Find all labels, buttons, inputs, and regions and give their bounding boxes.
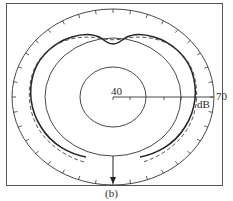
angle-tick [63, 170, 65, 173]
angle-tick [187, 40, 190, 43]
arrow-head-icon [110, 177, 116, 184]
angle-tick [78, 14, 79, 18]
angle-tick [95, 180, 96, 184]
angle-tick [197, 53, 200, 55]
angle-tick [162, 170, 164, 173]
angle-tick [175, 30, 178, 33]
inner-scale-label: 40 [111, 86, 122, 97]
angle-tick [204, 126, 208, 127]
angle-tick [78, 176, 79, 180]
angle-tick [18, 126, 22, 127]
figure-caption: (b) [105, 188, 118, 199]
angle-tick [63, 21, 65, 24]
outer-scale-label: 70 [216, 91, 227, 102]
angle-tick [48, 161, 51, 164]
angle-tick [197, 139, 200, 141]
angle-tick [146, 14, 147, 18]
angle-tick [14, 82, 18, 83]
angle-tick [175, 161, 178, 164]
angle-tick [130, 10, 131, 14]
angle-tick [146, 176, 147, 180]
angle-tick [48, 30, 51, 33]
angle-tick [36, 151, 39, 154]
angle-tick [26, 139, 29, 141]
angle-tick [162, 21, 164, 24]
angle-tick [209, 82, 213, 83]
angle-tick [14, 112, 18, 113]
angle-tick [18, 67, 22, 68]
angle-tick [187, 151, 190, 154]
unit-label: dB [197, 99, 210, 110]
angle-tick [36, 40, 39, 43]
angle-tick [26, 53, 29, 55]
angle-tick [95, 10, 96, 14]
angle-tick [130, 180, 131, 184]
angle-tick [204, 67, 208, 68]
angle-tick [209, 112, 213, 113]
